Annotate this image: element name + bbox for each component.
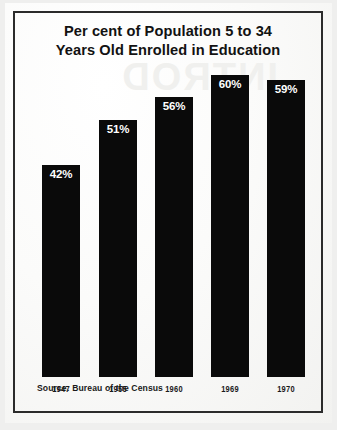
- bar-value-label: 60%: [211, 78, 249, 90]
- source-note: Source: Bureau of the Census: [37, 383, 163, 393]
- bar-1970: 59%: [267, 80, 305, 377]
- bar-1947: 42%: [42, 165, 80, 377]
- bar-value-label: 51%: [99, 123, 137, 135]
- chart-border-frame: Per cent of Population 5 to 34 Years Old…: [13, 11, 323, 413]
- bar-value-label: 42%: [42, 168, 80, 180]
- bar-1960: 56%: [155, 97, 193, 377]
- bar-value-label: 56%: [155, 100, 193, 112]
- bar-category-label: 1969: [211, 384, 250, 394]
- scanned-page: INTROD Per cent of Population 5 to 34 Ye…: [0, 0, 337, 430]
- bar-value-label: 59%: [267, 83, 305, 95]
- bar-1969: 60%: [211, 75, 249, 377]
- bar-category-label: 1970: [267, 384, 306, 394]
- bar-1955: 51%: [99, 120, 137, 377]
- plot-area: 42% 1947 51% 1955 56% 1960: [15, 13, 321, 411]
